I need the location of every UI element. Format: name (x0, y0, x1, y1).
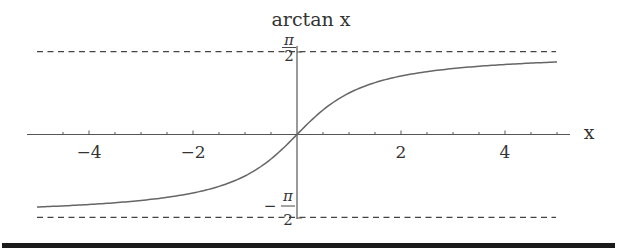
x-tick-label: 4 (500, 142, 511, 162)
x-axis-tick-labels: −4−224 (76, 142, 510, 162)
bottom-sign: − (264, 197, 277, 215)
x-tick-label: −2 (180, 142, 205, 162)
arctan-plot: −4−224 arctan x x π 2 − π 2 (0, 0, 619, 248)
bottom-denominator: 2 (283, 211, 293, 229)
bottom-numerator: π (282, 187, 294, 205)
x-tick-label: −4 (76, 142, 101, 162)
bottom-border-bar (2, 243, 615, 248)
top-denominator: 2 (284, 47, 294, 65)
y-tick-label-neg-pi-over-2: − π 2 (264, 187, 295, 229)
y-tick-label-pi-over-2: π 2 (282, 31, 296, 65)
x-axis-label: x (584, 121, 595, 143)
chart-title: arctan x (271, 8, 350, 30)
x-tick-label: 2 (396, 142, 407, 162)
